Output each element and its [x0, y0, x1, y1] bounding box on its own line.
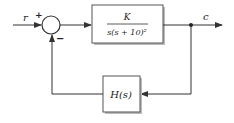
minus-sign: − [56, 33, 64, 44]
plus-sign: + [35, 10, 43, 20]
forward-denominator: s(s + 10)² [107, 28, 147, 37]
output-label: c [203, 11, 209, 22]
forward-numerator: K [123, 12, 132, 22]
summing-junction [42, 16, 60, 34]
feedback-block-label: H(s) [109, 89, 132, 100]
block-diagram: r + − K s(s + 10)² c H(s) [0, 0, 234, 123]
input-label: r [23, 12, 29, 23]
